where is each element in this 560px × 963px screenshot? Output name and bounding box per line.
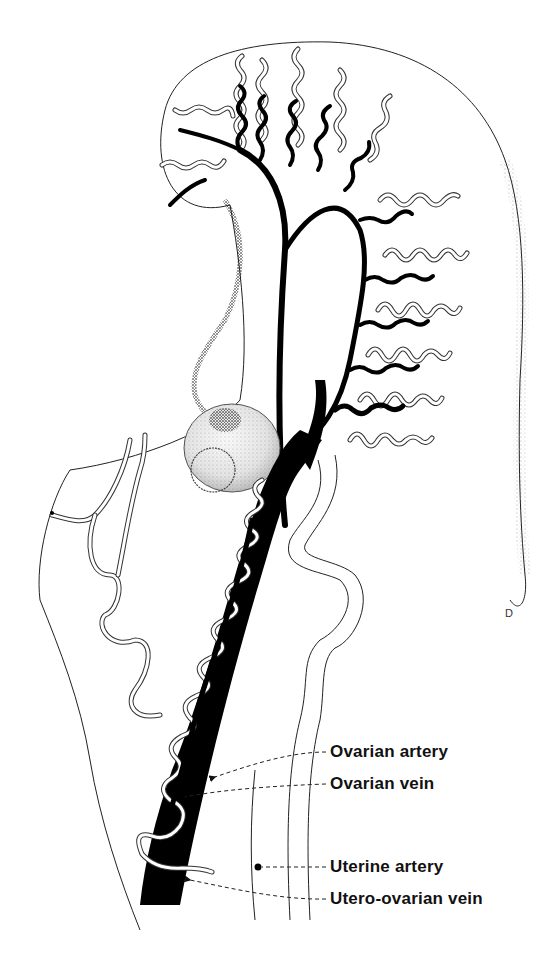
coiled-ovarian-artery xyxy=(139,480,262,872)
mesovarian-branches xyxy=(50,435,160,716)
tubal-arteries-white xyxy=(162,49,390,168)
uterine-artery-dot xyxy=(255,864,262,871)
artist-signature: D xyxy=(505,607,513,619)
mesovarium-outline xyxy=(39,205,244,930)
leader-ovarian-artery xyxy=(215,752,326,777)
label-ovarian-artery: Ovarian artery xyxy=(330,742,448,762)
label-uterine-artery: Uterine artery xyxy=(330,857,443,877)
vein-branch xyxy=(300,380,327,470)
ovary xyxy=(184,404,280,492)
tube-stipple-edge xyxy=(505,160,525,575)
corpus-luteum xyxy=(209,408,241,432)
tubal-vessel xyxy=(194,200,240,415)
label-utero-ovarian-vein: Utero-ovarian vein xyxy=(330,889,483,909)
anatomical-illustration: D xyxy=(0,0,560,963)
tube-outline xyxy=(161,42,526,606)
leader-utero-ovarian-vein xyxy=(190,880,326,899)
label-ovarian-vein: Ovarian vein xyxy=(330,774,434,794)
leader-ovarian-vein xyxy=(185,784,326,797)
